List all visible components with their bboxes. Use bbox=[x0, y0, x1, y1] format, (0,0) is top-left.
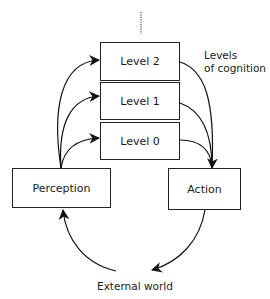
level-1-label: Level 1 bbox=[120, 95, 160, 108]
level-2-label: Level 2 bbox=[120, 55, 160, 68]
level-0-label: Level 0 bbox=[120, 135, 160, 148]
levels-caption: Levels of cognition bbox=[204, 49, 266, 75]
perception-label: Perception bbox=[32, 182, 90, 195]
level-2-box: Level 2 bbox=[100, 42, 180, 81]
external-world-label: External world bbox=[97, 280, 173, 293]
arrow-level-0-to-action bbox=[180, 140, 212, 168]
action-box: Action bbox=[168, 168, 241, 210]
levels-caption-line-1: Levels bbox=[204, 49, 266, 62]
perception-box: Perception bbox=[12, 168, 111, 208]
level-0-box: Level 0 bbox=[100, 122, 180, 160]
action-label: Action bbox=[187, 183, 221, 196]
levels-caption-line-2: of cognition bbox=[204, 62, 266, 75]
arrow-level-1-to-action bbox=[180, 103, 212, 168]
arrow-perception-to-level-0 bbox=[61, 138, 99, 168]
level-1-box: Level 1 bbox=[100, 82, 180, 120]
arrow-external-world-to-perception bbox=[63, 210, 116, 271]
arrow-action-to-external-world bbox=[152, 210, 205, 270]
arrow-perception-to-level-2 bbox=[58, 60, 99, 168]
arrow-perception-to-level-1 bbox=[61, 96, 99, 168]
